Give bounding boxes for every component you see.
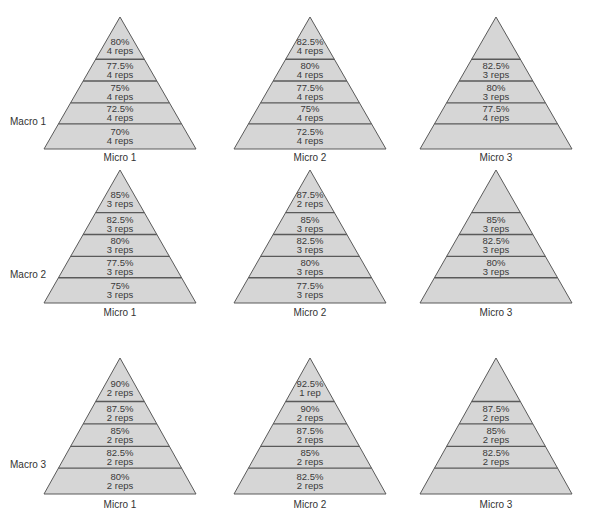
band-reps: 2 reps: [107, 456, 134, 467]
band-reps: 2 reps: [107, 480, 134, 491]
band-reps: 3 reps: [297, 223, 324, 234]
band-reps: 3 reps: [483, 223, 510, 234]
band-reps: 2 reps: [297, 198, 324, 209]
band-reps: 2 reps: [297, 480, 324, 491]
pyramid-r1-c3: 82.5%3 reps80%3 reps77.5%4 reps: [420, 17, 572, 149]
pyramid-r1-c2: 82.5%4 reps80%4 reps77.5%4 reps75%4 reps…: [234, 17, 386, 149]
band-reps: 3 reps: [297, 244, 324, 255]
band-reps: 3 reps: [483, 244, 510, 255]
pyramid-r2-c3: 85%3 reps82.5%3 reps80%3 reps: [420, 170, 572, 303]
band-reps: 4 reps: [297, 45, 324, 56]
band-reps: 2 reps: [483, 456, 510, 467]
pyramid-r3-c2: 92.5%1 rep90%2 reps87.5%2 reps85%2 reps8…: [234, 358, 386, 494]
band-reps: 4 reps: [297, 91, 324, 102]
band-reps: 3 reps: [107, 244, 134, 255]
band-reps: 2 reps: [297, 434, 324, 445]
band-reps: 4 reps: [297, 69, 324, 80]
band-reps: 3 reps: [107, 223, 134, 234]
band-reps: 3 reps: [483, 266, 510, 277]
band-reps: 2 reps: [107, 412, 134, 423]
band-reps: 4 reps: [297, 135, 324, 146]
band-reps: 4 reps: [483, 112, 510, 123]
band-reps: 2 reps: [107, 387, 134, 398]
band-reps: 4 reps: [297, 112, 324, 123]
pyramid-r1-c1: 80%4 reps77.5%4 reps75%4 reps72.5%4 reps…: [44, 17, 196, 149]
band-reps: 2 reps: [297, 412, 324, 423]
band-reps: 2 reps: [483, 412, 510, 423]
pyramids-canvas: 80%4 reps77.5%4 reps75%4 reps72.5%4 reps…: [0, 0, 589, 519]
pyramid-grid-diagram: Macro 1 Macro 2 Macro 3 Micro 1 Micro 2 …: [0, 0, 589, 519]
pyramid-r2-c1: 85%3 reps82.5%3 reps80%3 reps77.5%3 reps…: [44, 170, 196, 303]
band-reps: 3 reps: [107, 289, 134, 300]
pyramid-r3-c3: 87.5%2 reps85%2 reps82.5%2 reps: [420, 358, 572, 494]
band-reps: 4 reps: [107, 69, 134, 80]
band-reps: 4 reps: [107, 112, 134, 123]
band-reps: 3 reps: [297, 266, 324, 277]
band-reps: 3 reps: [297, 289, 324, 300]
band-reps: 1 rep: [299, 387, 321, 398]
pyramid-r2-c2: 87.5%2 reps85%3 reps82.5%3 reps80%3 reps…: [234, 170, 386, 303]
band-reps: 4 reps: [107, 91, 134, 102]
band-reps: 3 reps: [107, 198, 134, 209]
band-reps: 2 reps: [297, 456, 324, 467]
band-reps: 4 reps: [107, 45, 134, 56]
band-reps: 2 reps: [483, 434, 510, 445]
band-reps: 2 reps: [107, 434, 134, 445]
band-reps: 3 reps: [483, 91, 510, 102]
band-reps: 3 reps: [107, 266, 134, 277]
band-reps: 4 reps: [107, 135, 134, 146]
pyramid-r3-c1: 90%2 reps87.5%2 reps85%2 reps82.5%2 reps…: [44, 358, 196, 494]
band-reps: 3 reps: [483, 69, 510, 80]
